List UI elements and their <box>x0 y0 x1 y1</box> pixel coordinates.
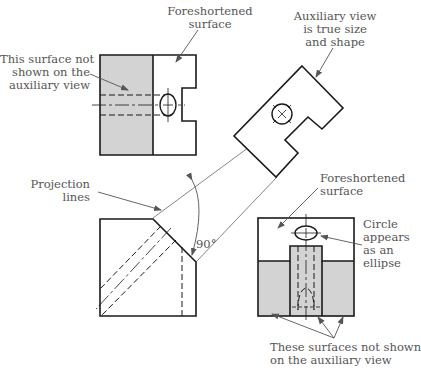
label-line: and shape <box>290 36 380 49</box>
label-foreshortened-bottom: Foreshortened surface <box>320 172 405 198</box>
label-line: surface <box>160 18 260 31</box>
side-view-bottom-right <box>258 214 354 322</box>
auxiliary-view <box>234 65 343 177</box>
label-projection-lines: Projection lines <box>20 178 90 204</box>
label-auxiliary-true-size: Auxiliary view is true size and shape <box>290 10 380 49</box>
label-line: surface <box>320 185 405 198</box>
label-surfaces-not-shown: These surfaces not shown on the auxiliar… <box>270 341 421 367</box>
angle-label: 90° <box>196 238 216 251</box>
label-line: on the auxiliary view <box>270 354 421 367</box>
label-line: ellipse <box>363 257 410 270</box>
label-circle-ellipse: Circle appears as an ellipse <box>363 218 410 270</box>
top-view-bottom-left <box>96 219 196 316</box>
label-line: lines <box>20 191 90 204</box>
label-foreshortened-top: Foreshortened surface <box>160 5 260 31</box>
label-line: auxiliary view <box>0 79 90 92</box>
front-view-top-left <box>92 55 196 155</box>
label-surface-not-shown: This surface not shown on the auxiliary … <box>0 53 90 92</box>
